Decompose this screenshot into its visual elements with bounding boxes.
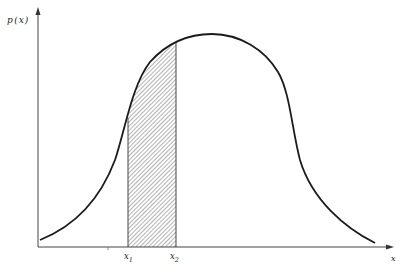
x-axis-arrow-icon [386,245,394,250]
y-axis [36,7,41,247]
x-axis-label: x [391,254,396,263]
x-axis [38,245,394,251]
shaded-probability-area [128,42,176,247]
upper-bound-label: x2 [170,251,179,264]
density-curve [40,34,375,243]
y-axis-arrow-icon [36,7,41,15]
probability-density-diagram: p(x) x x1 x2 [0,0,409,270]
y-axis-label: p(x) [7,15,29,25]
lower-bound-label: x1 [124,251,133,264]
